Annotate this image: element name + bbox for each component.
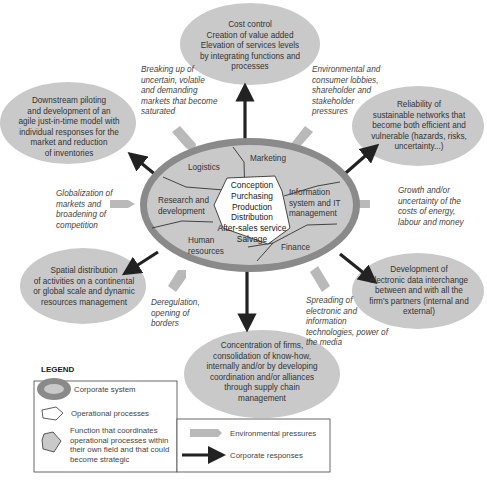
text-line: the media bbox=[306, 338, 388, 349]
text-line: market and reduction bbox=[2, 138, 136, 149]
text-line: system and IT bbox=[289, 199, 340, 210]
text-line: Conception bbox=[212, 180, 292, 191]
text-line: After-sales service bbox=[212, 223, 292, 234]
text-line: uncertainty of the bbox=[398, 197, 464, 208]
text-line: borders bbox=[151, 319, 200, 330]
text-line: saturated bbox=[141, 107, 217, 118]
function-marketing: Marketing bbox=[250, 154, 286, 165]
text-line: broadening of bbox=[56, 210, 112, 221]
text-line: by integrating functions and bbox=[182, 52, 318, 63]
text-line: information bbox=[306, 317, 388, 328]
text-line: development bbox=[158, 207, 209, 218]
text-line: become strategic bbox=[70, 455, 169, 465]
text-line: stakeholder bbox=[312, 97, 380, 108]
function-logistics: Logistics bbox=[188, 163, 220, 174]
pressure-environmental: Environmental and consumer lobbies, shar… bbox=[312, 65, 380, 118]
legend-title: LEGEND bbox=[41, 365, 74, 374]
text-line: Environmental and bbox=[312, 65, 380, 76]
text-line: management bbox=[188, 394, 336, 405]
text-line: markets and bbox=[56, 200, 112, 211]
text-line: Spreading of bbox=[306, 296, 388, 307]
legend-operational-processes-label: Operational processes bbox=[71, 409, 149, 419]
text-line: Research and bbox=[158, 196, 209, 207]
text-line: consumer lobbies, bbox=[312, 76, 380, 87]
pressure-breaking-up: Breaking up of uncertain, volatile and d… bbox=[141, 65, 217, 118]
pressure-deregulation: Deregulation, opening of borders bbox=[151, 298, 200, 330]
text-line: Production bbox=[212, 202, 292, 213]
text-line: uncertainty...) bbox=[356, 142, 482, 153]
operational-processes-text: Conception Purchasing Production Distrib… bbox=[212, 180, 292, 245]
text-line: Spatial distribution bbox=[24, 266, 144, 277]
text-line: competition bbox=[56, 221, 112, 232]
text-line: Distribution bbox=[212, 212, 292, 223]
text-line: Logistics bbox=[188, 163, 220, 174]
text-line: management bbox=[289, 209, 340, 220]
pressure-globalization: Globalization of markets and broadening … bbox=[56, 189, 112, 231]
text-line: electronic and bbox=[306, 307, 388, 318]
text-line: resources bbox=[188, 247, 224, 258]
text-line: technologies, power of bbox=[306, 328, 388, 339]
text-line: Function that coordinates bbox=[70, 426, 169, 436]
text-line: Development of bbox=[356, 265, 482, 276]
text-line: resources management bbox=[24, 298, 144, 309]
text-line: Globalization of bbox=[56, 189, 112, 200]
text-line: markets that become bbox=[141, 97, 217, 108]
text-line: Breaking up of bbox=[141, 65, 217, 76]
legend-arrow-box bbox=[177, 419, 330, 472]
text-line: Marketing bbox=[250, 154, 286, 165]
text-line: coordination and/or alliances bbox=[188, 373, 336, 384]
text-line: Information bbox=[289, 188, 340, 199]
text-line: operational processes within bbox=[70, 436, 169, 446]
text-line: Deregulation, bbox=[151, 298, 200, 309]
text-line: and development of an bbox=[2, 107, 136, 118]
legend-function-label: Function that coordinates operational pr… bbox=[70, 426, 169, 464]
legend-environmental-pressures-label: Environmental pressures bbox=[230, 429, 316, 439]
text-line: through supply chain bbox=[188, 383, 336, 394]
response-downstream: Downstream piloting and development of a… bbox=[2, 96, 136, 160]
text-line: Cost control bbox=[182, 20, 318, 31]
text-line: costs of energy, bbox=[398, 207, 464, 218]
text-line: or global scale and dynamic bbox=[24, 287, 144, 298]
legend-corporate-system-label: Corporate system bbox=[74, 385, 136, 395]
text-line: shareholder and bbox=[312, 86, 380, 97]
text-line: Purchasing bbox=[212, 191, 292, 202]
text-line: Downstream piloting bbox=[2, 96, 136, 107]
function-research: Research and development bbox=[158, 196, 209, 217]
text-line: uncertain, volatile bbox=[141, 76, 217, 87]
text-line: pressures bbox=[312, 107, 380, 118]
text-line: labour and money bbox=[398, 218, 464, 229]
pressure-spreading: Spreading of electronic and information … bbox=[306, 296, 388, 349]
function-information: Information system and IT management bbox=[289, 188, 340, 220]
text-line: agile just-in-time model with bbox=[2, 117, 136, 128]
text-line: Elevation of services levels bbox=[182, 41, 318, 52]
text-line: their own field and that could bbox=[70, 445, 169, 455]
text-line: internally and/or by developing bbox=[188, 362, 336, 373]
text-line: opening of bbox=[151, 309, 200, 320]
text-line: Growth and/or bbox=[398, 186, 464, 197]
text-line: and demanding bbox=[141, 86, 217, 97]
text-line: consolidation of know-how, bbox=[188, 352, 336, 363]
legend-pressure-arrow-icon bbox=[190, 429, 222, 437]
text-line: of activities on a continental bbox=[24, 277, 144, 288]
legend-corporate-inner-icon bbox=[44, 384, 64, 394]
text-line: electronic data interchange bbox=[356, 276, 482, 287]
pressure-growth: Growth and/or uncertainty of the costs o… bbox=[398, 186, 464, 228]
response-concentration: Concentration of firms, consolidation of… bbox=[188, 341, 336, 405]
text-line: become both efficient and bbox=[356, 121, 482, 132]
text-line: Creation of value added bbox=[182, 31, 318, 42]
response-spatial: Spatial distribution of activities on a … bbox=[24, 266, 144, 308]
text-line: vulnerable (hazards, risks, bbox=[356, 132, 482, 143]
text-line: Salvage bbox=[212, 234, 292, 245]
text-line: individual responses for the bbox=[2, 128, 136, 139]
legend-corporate-responses-label: Corporate responses bbox=[230, 451, 303, 461]
text-line: of inventories bbox=[2, 149, 136, 160]
